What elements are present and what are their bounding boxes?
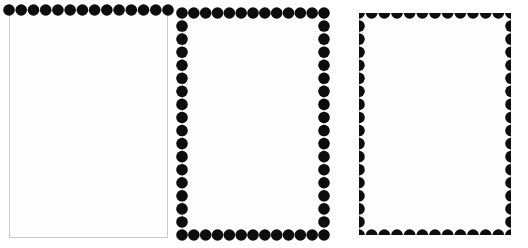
border-dot [359, 72, 365, 84]
border-dot [176, 20, 188, 32]
border-dot [379, 229, 391, 235]
border-dot [359, 20, 365, 32]
border-dot [259, 229, 271, 241]
border-dot [212, 229, 224, 241]
border-dot [162, 4, 174, 16]
border-dot [176, 125, 188, 137]
border-dot [429, 229, 441, 235]
border-dot [200, 229, 212, 241]
border-dot [417, 13, 429, 19]
border-dot [505, 151, 511, 163]
border-dot [271, 7, 283, 19]
border-dot [259, 7, 271, 19]
border-dot [3, 4, 15, 16]
border-dot [113, 4, 125, 16]
border-dot [505, 72, 511, 84]
border-dot [442, 13, 454, 19]
border-dot [224, 229, 236, 241]
border-dot [455, 229, 467, 235]
border-dot [505, 125, 511, 137]
border-dot [318, 151, 330, 163]
border-dot [271, 229, 283, 241]
border-dot [505, 216, 511, 228]
border-dot [306, 7, 318, 19]
border-dot [318, 86, 330, 98]
border-dot [176, 7, 188, 19]
border-dot [176, 112, 188, 124]
border-dot [176, 229, 188, 241]
border-dot [64, 4, 76, 16]
border-dot [318, 177, 330, 189]
border-dot [176, 86, 188, 98]
border-dot [318, 112, 330, 124]
border-dot [505, 20, 511, 32]
border-dot [505, 59, 511, 71]
border-dot [505, 46, 511, 58]
border-dot [359, 164, 365, 176]
border-dot [391, 13, 403, 19]
border-dot [505, 112, 511, 124]
border-dot [89, 4, 101, 16]
border-dot [150, 4, 162, 16]
border-dot [366, 229, 378, 235]
border-dot [176, 151, 188, 163]
border-dot [318, 164, 330, 176]
border-dot [404, 13, 416, 19]
border-dot [467, 229, 479, 235]
border-dot [318, 229, 330, 241]
border-dot [359, 138, 365, 150]
border-dot [235, 7, 247, 19]
border-dot [295, 7, 307, 19]
border-dot [52, 4, 64, 16]
border-dot [318, 125, 330, 137]
border-dot [359, 151, 365, 163]
border-dot [188, 7, 200, 19]
border-dot [176, 203, 188, 215]
border-dot [318, 190, 330, 202]
border-dot [176, 33, 188, 45]
border-dot [359, 13, 365, 19]
border-dot [359, 229, 365, 235]
panel-1 [9, 10, 168, 238]
border-dot [359, 216, 365, 228]
border-dot [28, 4, 40, 16]
border-dot [359, 99, 365, 111]
border-dot [176, 59, 188, 71]
border-dot [366, 13, 378, 19]
border-dot [318, 46, 330, 58]
border-dot [391, 229, 403, 235]
border-dot [318, 20, 330, 32]
border-dot [318, 203, 330, 215]
border-dot [318, 138, 330, 150]
border-dot [505, 86, 511, 98]
border-dot [77, 4, 89, 16]
border-dot [235, 229, 247, 241]
border-dot [505, 33, 511, 45]
border-dot [493, 229, 505, 235]
border-dot [505, 177, 511, 189]
border-dot [359, 112, 365, 124]
border-dot [359, 125, 365, 137]
border-dot [101, 4, 113, 16]
border-dot [505, 203, 511, 215]
border-dot [247, 229, 259, 241]
border-dot [176, 164, 188, 176]
panel-2-dot-border [182, 13, 324, 235]
border-dot [306, 229, 318, 241]
figure-root [0, 0, 528, 248]
border-dot [467, 13, 479, 19]
border-dot [318, 59, 330, 71]
border-dot [505, 164, 511, 176]
panel-2 [182, 13, 324, 235]
border-dot [224, 7, 236, 19]
border-dot [318, 33, 330, 45]
border-dot [359, 33, 365, 45]
border-dot [283, 7, 295, 19]
border-dot [505, 99, 511, 111]
border-dot [15, 4, 27, 16]
border-dot [318, 7, 330, 19]
border-dot [455, 13, 467, 19]
border-dot [359, 177, 365, 189]
border-dot [442, 229, 454, 235]
border-dot [359, 86, 365, 98]
